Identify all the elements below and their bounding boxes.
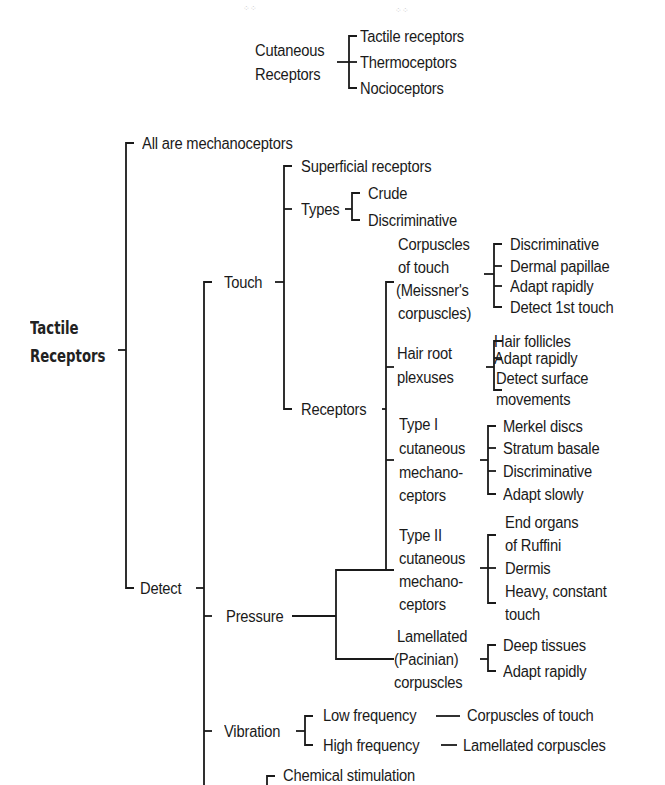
group-name: Corpuscles <box>398 236 470 253</box>
group-item: Discriminative <box>510 236 599 253</box>
node-types: Types <box>301 201 339 218</box>
vibration-high: High frequency <box>323 737 419 754</box>
group-name: Type II <box>399 527 442 544</box>
group-item: Detect surface <box>496 370 588 387</box>
group-item: touch <box>505 606 540 623</box>
group-name: mechano- <box>399 464 463 481</box>
group-name: (Meissner's <box>396 282 469 299</box>
group-item: Stratum basale <box>503 440 599 457</box>
node-detect: Detect <box>140 580 181 597</box>
cutaneous-child: Thermoceptors <box>360 54 457 71</box>
group-name: corpuscles) <box>398 305 471 322</box>
group-item: Adapt slowly <box>503 486 583 503</box>
group-item: Dermis <box>505 560 551 577</box>
group-item: movements <box>496 391 570 408</box>
group-name: ceptors <box>399 596 446 613</box>
cutaneous-root-line1: Cutaneous <box>255 42 325 59</box>
group-name: ceptors <box>399 487 446 504</box>
vibration-low: Low frequency <box>323 707 416 724</box>
group-item: Dermal papillae <box>510 258 610 275</box>
group-item: Adapt rapidly <box>503 663 587 680</box>
node-chemical: Chemical stimulation <box>283 767 415 784</box>
group-name: Hair root <box>397 345 452 362</box>
group-item: Adapt rapidly <box>494 350 578 367</box>
group-name: of touch <box>398 259 449 276</box>
group-name: plexuses <box>397 369 454 386</box>
group-name: corpuscles <box>394 674 463 691</box>
group-item: Discriminative <box>503 463 592 480</box>
node-pressure: Pressure <box>226 608 283 625</box>
group-item: Detect 1st touch <box>510 299 613 316</box>
group-item: End organs <box>505 514 578 531</box>
group-item: of Ruffini <box>505 537 561 554</box>
scan-artifact: ⁘⁘ <box>243 4 257 13</box>
node-touch: Touch <box>224 274 262 291</box>
group-item: Deep tissues <box>503 637 586 654</box>
group-name: cutaneous <box>399 550 465 567</box>
cutaneous-child: Nocioceptors <box>360 80 444 97</box>
group-name: mechano- <box>399 573 463 590</box>
node-all-are: All are mechanoceptors <box>142 135 293 152</box>
group-item: Merkel discs <box>503 418 583 435</box>
scan-artifact: ⁘⁘ <box>395 6 409 15</box>
group-item: Hair follicles <box>494 333 571 350</box>
tactile-root-line2: Receptors <box>30 344 105 368</box>
node-vibration: Vibration <box>224 723 280 740</box>
group-name: Type I <box>399 416 438 433</box>
node-superficial: Superficial receptors <box>301 158 431 175</box>
group-name: cutaneous <box>399 440 465 457</box>
type-item: Discriminative <box>368 212 457 229</box>
group-item: Adapt rapidly <box>510 278 594 295</box>
vibration-low-target: Corpuscles of touch <box>467 707 594 724</box>
node-receptors: Receptors <box>301 401 366 418</box>
group-name: Lamellated <box>397 628 467 645</box>
cutaneous-root-line2: Receptors <box>255 66 320 83</box>
type-item: Crude <box>368 185 407 202</box>
tactile-root-line1: Tactile <box>30 316 79 340</box>
group-item: Heavy, constant <box>505 583 607 600</box>
vibration-high-target: Lamellated corpuscles <box>463 737 606 754</box>
cutaneous-child: Tactile receptors <box>360 28 464 45</box>
group-name: (Pacinian) <box>394 651 458 668</box>
